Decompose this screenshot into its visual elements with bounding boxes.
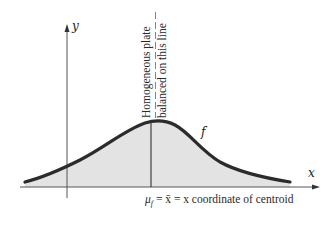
centroid-caption: μf = x̄ = x coordinate of centroid xyxy=(145,194,293,208)
y-axis-label: y xyxy=(72,20,79,32)
y-axis-arrow-icon xyxy=(65,24,70,32)
caption-text: = x̄ = x coordinate of centroid xyxy=(153,193,293,205)
annotation-homogeneous-plate: Homogeneous plate xyxy=(141,26,153,118)
x-axis-arrow-icon xyxy=(312,185,320,190)
shaded-area-under-curve xyxy=(25,121,290,187)
x-axis-label: x xyxy=(308,167,315,179)
annotation-balanced-line: balanced on this line xyxy=(157,23,169,118)
curve-label-f: f xyxy=(201,126,205,138)
